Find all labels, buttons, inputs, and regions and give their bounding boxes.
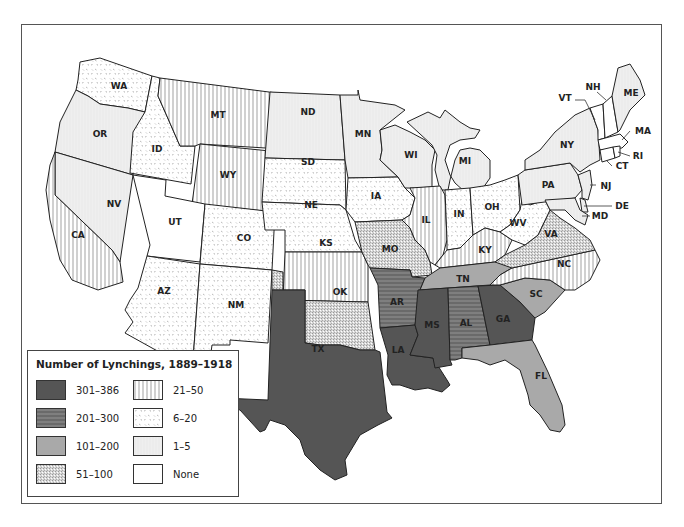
label-TN: TN: [456, 274, 470, 284]
label-RI: RI: [633, 151, 643, 161]
legend-title: Number of Lynchings, 1889–1918: [36, 358, 232, 370]
label-ND: ND: [300, 107, 315, 117]
label-GA: GA: [496, 314, 510, 324]
label-ID: ID: [152, 144, 163, 154]
legend-item-201-300: 201–300: [36, 408, 119, 428]
label-WY: WY: [220, 170, 237, 180]
label-CT: CT: [616, 161, 630, 171]
label-OH: OH: [484, 202, 499, 212]
label-OR: OR: [93, 129, 108, 139]
legend-item-301-386: 301–386: [36, 380, 119, 400]
label-MS: MS: [424, 320, 439, 330]
label-DE: DE: [615, 201, 629, 211]
label-NY: NY: [560, 140, 575, 150]
legend-swatch: [133, 408, 163, 428]
label-MI: MI: [459, 156, 471, 166]
legend-item-1-5: 1–5: [133, 436, 191, 456]
label-SD: SD: [301, 157, 315, 167]
label-TX: TX: [311, 344, 324, 354]
label-OK: OK: [333, 287, 349, 297]
label-NJ: NJ: [601, 181, 612, 191]
state-ME: [612, 64, 645, 132]
label-CO: CO: [237, 233, 252, 243]
label-NM: NM: [228, 300, 245, 310]
label-IL: IL: [421, 215, 430, 225]
label-VA: VA: [544, 229, 557, 239]
state-FL: [462, 340, 565, 432]
label-NH: NH: [585, 82, 600, 92]
legend-label: 1–5: [173, 441, 191, 452]
state-ND: [265, 92, 345, 160]
label-SC: SC: [529, 289, 542, 299]
legend-label: 101–200: [76, 441, 119, 452]
label-IN: IN: [454, 209, 465, 219]
state-AZ: [125, 256, 200, 360]
legend-label: 201–300: [76, 413, 119, 424]
legend-swatch: [36, 436, 66, 456]
legend-swatch: [36, 380, 66, 400]
label-VT: VT: [558, 93, 572, 103]
label-MO: MO: [382, 244, 399, 254]
label-AL: AL: [460, 318, 473, 328]
label-NE: NE: [304, 200, 318, 210]
legend-swatch: [133, 380, 163, 400]
label-ME: ME: [623, 88, 638, 98]
label-LA: LA: [392, 345, 405, 355]
legend-swatch: [36, 408, 66, 428]
legend-label: 51–100: [76, 469, 113, 480]
label-AR: AR: [390, 297, 404, 307]
state-NM: [193, 264, 272, 360]
label-PA: PA: [542, 180, 555, 190]
legend-swatch: [36, 464, 66, 484]
label-MD: MD: [592, 211, 608, 221]
callout-NH: [597, 92, 606, 100]
legend-item-101-200: 101–200: [36, 436, 119, 456]
callout-MA: [622, 131, 630, 140]
legend-label: 301–386: [76, 385, 119, 396]
legend-label: 21–50: [173, 385, 203, 396]
legend-swatch: [133, 464, 163, 484]
label-WA: WA: [111, 81, 128, 91]
label-NV: NV: [107, 199, 122, 209]
label-CA: CA: [71, 230, 85, 240]
label-AZ: AZ: [157, 286, 171, 296]
label-MN: MN: [355, 129, 372, 139]
legend-item-6-20: 6–20: [133, 408, 197, 428]
legend-swatch: [133, 436, 163, 456]
label-FL: FL: [535, 371, 547, 381]
map-legend: Number of Lynchings, 1889–1918 301–386 2…: [27, 350, 239, 497]
callout-CT: [606, 160, 612, 166]
label-IA: IA: [371, 191, 381, 201]
label-MT: MT: [210, 110, 226, 120]
label-NC: NC: [557, 259, 572, 269]
legend-item-none: None: [133, 464, 199, 484]
label-UT: UT: [168, 217, 182, 227]
label-MA: MA: [635, 126, 651, 136]
legend-item-21-50: 21–50: [133, 380, 203, 400]
label-KY: KY: [478, 245, 492, 255]
label-WV: WV: [510, 218, 527, 228]
legend-label: None: [173, 469, 199, 480]
label-WI: WI: [404, 150, 417, 160]
label-KS: KS: [319, 238, 332, 248]
state-CT: [600, 147, 615, 162]
legend-item-51-100: 51–100: [36, 464, 113, 484]
legend-label: 6–20: [173, 413, 197, 424]
